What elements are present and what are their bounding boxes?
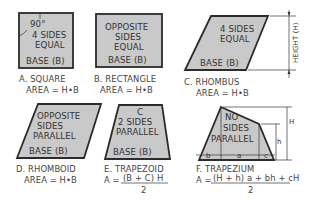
figure-square: 90° 4 SIDES EQUAL BASE (B) A. SQUARE ARE…: [19, 13, 79, 95]
trapezium-inner-line-2: PARALLEL: [211, 134, 254, 144]
trapezium-dim-c: c: [264, 152, 268, 160]
square-formula: AREA = H•B: [26, 85, 79, 95]
rhombus-caption: C. RHOMBUS: [184, 77, 239, 87]
rectangle-formula: AREA = H•B: [100, 85, 153, 95]
rhomboid-base-label: BASE (B): [29, 146, 68, 156]
rectangle-inner-line-1: SIDES: [115, 32, 141, 42]
trapezoid-formula-numerator: (B + C) H: [123, 173, 163, 183]
trapezium-formula-denominator: 2: [248, 185, 253, 195]
trapezium-inner-line-1: SIDES: [223, 123, 249, 133]
rhomboid-caption: D. RHOMBOID: [16, 164, 76, 174]
trapezium-formula-prefix: A =: [196, 175, 212, 185]
rhomboid-inner-line-2: PARALLEL: [33, 131, 76, 141]
rectangle-inner-line-0: OPPOSITE: [105, 22, 148, 32]
trapezium-formula-numerator: (H + h) a + bh + cH: [213, 173, 299, 183]
trapezium-dim-b: b: [206, 152, 211, 160]
trapezium-dim-a: a: [237, 152, 241, 160]
square-caption: A. SQUARE: [19, 74, 66, 84]
rhombus-inner-line-1: EQUAL: [220, 34, 250, 44]
square-inner-line-2: EQUAL: [35, 40, 65, 50]
trapezoid-inner-line-1: 2 SIDES: [118, 117, 152, 127]
figure-rectangle: OPPOSITE SIDES EQUAL BASE (B) B. RECTANG…: [94, 14, 162, 95]
height-dimension-label: HEIGHT (H): [292, 22, 300, 63]
rhombus-base-label: BASE (B): [200, 58, 239, 68]
quadrilaterals-diagram: 90° 4 SIDES EQUAL BASE (B) A. SQUARE ARE…: [0, 0, 310, 202]
figure-trapezoid: C 2 SIDES PARALLEL BASE (B) E. TRAPEZOID…: [104, 105, 170, 195]
trapezoid-inner-line-2: PARALLEL: [116, 127, 159, 137]
square-angle-label: 90°: [30, 19, 46, 29]
trapezium-dim-h: h: [277, 138, 282, 146]
trapezoid-formula-prefix: A =: [104, 175, 120, 185]
square-base-label: BASE (B): [26, 56, 65, 66]
rhomboid-inner-line-0: OPPOSITE: [37, 111, 80, 121]
rhombus-inner-line-0: 4 SIDES: [220, 24, 254, 34]
rectangle-inner-line-2: EQUAL: [114, 42, 144, 52]
figure-trapezium: NO SIDES PARALLEL b a c H h F. TRAPEZIUM…: [196, 107, 299, 195]
rhombus-formula: AREA = H•B: [196, 88, 249, 98]
rhomboid-inner-line-1: SIDES: [37, 121, 63, 131]
trapezium-dim-H: H: [289, 118, 294, 126]
square-inner-line-1: 4 SIDES: [32, 30, 66, 40]
rhomboid-formula: AREA = H•B: [24, 175, 77, 185]
trapezoid-formula-denominator: 2: [141, 185, 146, 195]
rectangle-caption: B. RECTANGLE: [94, 74, 156, 84]
rectangle-base-label: BASE (B): [108, 55, 147, 65]
trapezoid-top-label: C: [137, 107, 143, 117]
figure-rhomboid: OPPOSITE SIDES PARALLEL BASE (B) D. RHOM…: [16, 104, 101, 185]
figure-rhombus: 4 SIDES EQUAL BASE (B) HEIGHT (H) C. RHO…: [184, 10, 300, 98]
trapezium-inner-line-0: NO: [225, 112, 239, 122]
trapezoid-base-label: BASE (B): [113, 147, 152, 157]
